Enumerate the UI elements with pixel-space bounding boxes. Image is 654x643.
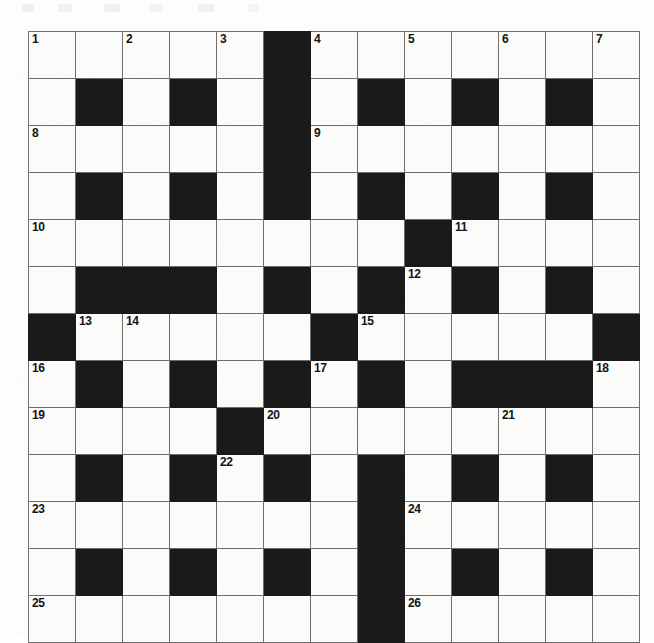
crossword-open-cell[interactable] <box>123 173 170 220</box>
crossword-open-cell[interactable] <box>170 32 217 79</box>
crossword-open-cell[interactable] <box>311 455 358 502</box>
crossword-open-cell[interactable] <box>76 408 123 455</box>
crossword-open-cell[interactable] <box>76 220 123 267</box>
crossword-open-cell[interactable] <box>593 126 640 173</box>
crossword-open-cell[interactable] <box>264 314 311 361</box>
crossword-open-cell[interactable] <box>452 32 499 79</box>
crossword-open-cell[interactable] <box>217 79 264 126</box>
crossword-open-cell[interactable] <box>123 549 170 596</box>
crossword-open-cell[interactable] <box>170 314 217 361</box>
crossword-open-cell[interactable] <box>311 596 358 643</box>
crossword-grid[interactable]: 1234567891011121314151617181920212223242… <box>28 31 640 643</box>
crossword-open-cell[interactable] <box>546 32 593 79</box>
crossword-open-cell[interactable] <box>264 220 311 267</box>
crossword-open-cell[interactable] <box>123 79 170 126</box>
crossword-open-cell[interactable] <box>29 79 76 126</box>
crossword-open-cell[interactable] <box>217 314 264 361</box>
crossword-open-cell[interactable] <box>123 455 170 502</box>
crossword-open-cell[interactable] <box>217 220 264 267</box>
crossword-open-cell[interactable] <box>76 502 123 549</box>
crossword-open-cell[interactable]: 20 <box>264 408 311 455</box>
crossword-open-cell[interactable]: 2 <box>123 32 170 79</box>
crossword-open-cell[interactable] <box>76 596 123 643</box>
crossword-open-cell[interactable] <box>170 126 217 173</box>
crossword-open-cell[interactable]: 13 <box>76 314 123 361</box>
crossword-open-cell[interactable] <box>217 267 264 314</box>
crossword-open-cell[interactable] <box>123 126 170 173</box>
crossword-open-cell[interactable]: 23 <box>29 502 76 549</box>
crossword-open-cell[interactable] <box>217 126 264 173</box>
crossword-open-cell[interactable] <box>499 173 546 220</box>
crossword-open-cell[interactable] <box>123 361 170 408</box>
crossword-open-cell[interactable]: 5 <box>405 32 452 79</box>
crossword-open-cell[interactable] <box>311 408 358 455</box>
crossword-open-cell[interactable] <box>170 220 217 267</box>
crossword-open-cell[interactable] <box>29 267 76 314</box>
crossword-open-cell[interactable] <box>452 126 499 173</box>
crossword-open-cell[interactable] <box>123 596 170 643</box>
crossword-open-cell[interactable]: 4 <box>311 32 358 79</box>
crossword-open-cell[interactable] <box>311 79 358 126</box>
crossword-open-cell[interactable] <box>123 408 170 455</box>
crossword-open-cell[interactable] <box>123 502 170 549</box>
crossword-open-cell[interactable] <box>217 596 264 643</box>
crossword-open-cell[interactable] <box>311 220 358 267</box>
crossword-open-cell[interactable]: 24 <box>405 502 452 549</box>
crossword-open-cell[interactable]: 15 <box>358 314 405 361</box>
crossword-open-cell[interactable] <box>593 502 640 549</box>
crossword-open-cell[interactable]: 8 <box>29 126 76 173</box>
crossword-open-cell[interactable]: 14 <box>123 314 170 361</box>
crossword-open-cell[interactable] <box>29 455 76 502</box>
crossword-open-cell[interactable] <box>499 314 546 361</box>
crossword-open-cell[interactable] <box>170 596 217 643</box>
crossword-open-cell[interactable] <box>405 455 452 502</box>
crossword-open-cell[interactable]: 12 <box>405 267 452 314</box>
crossword-open-cell[interactable] <box>499 596 546 643</box>
crossword-open-cell[interactable] <box>546 502 593 549</box>
crossword-open-cell[interactable] <box>593 79 640 126</box>
crossword-open-cell[interactable] <box>311 502 358 549</box>
crossword-open-cell[interactable] <box>499 502 546 549</box>
crossword-open-cell[interactable]: 18 <box>593 361 640 408</box>
crossword-open-cell[interactable] <box>358 220 405 267</box>
crossword-open-cell[interactable]: 7 <box>593 32 640 79</box>
crossword-open-cell[interactable] <box>170 502 217 549</box>
crossword-open-cell[interactable] <box>546 314 593 361</box>
crossword-open-cell[interactable]: 9 <box>311 126 358 173</box>
crossword-open-cell[interactable] <box>593 596 640 643</box>
crossword-open-cell[interactable]: 21 <box>499 408 546 455</box>
crossword-open-cell[interactable]: 3 <box>217 32 264 79</box>
crossword-open-cell[interactable] <box>593 220 640 267</box>
crossword-open-cell[interactable] <box>217 502 264 549</box>
crossword-open-cell[interactable] <box>405 549 452 596</box>
crossword-open-cell[interactable] <box>217 361 264 408</box>
crossword-open-cell[interactable] <box>452 502 499 549</box>
crossword-open-cell[interactable] <box>546 126 593 173</box>
crossword-open-cell[interactable] <box>452 596 499 643</box>
crossword-open-cell[interactable]: 11 <box>452 220 499 267</box>
crossword-open-cell[interactable] <box>358 32 405 79</box>
crossword-open-cell[interactable] <box>358 408 405 455</box>
crossword-open-cell[interactable]: 22 <box>217 455 264 502</box>
crossword-open-cell[interactable] <box>29 549 76 596</box>
crossword-open-cell[interactable]: 17 <box>311 361 358 408</box>
crossword-open-cell[interactable] <box>499 79 546 126</box>
crossword-open-cell[interactable] <box>311 549 358 596</box>
crossword-open-cell[interactable] <box>29 173 76 220</box>
crossword-open-cell[interactable] <box>264 502 311 549</box>
crossword-open-cell[interactable] <box>452 314 499 361</box>
crossword-open-cell[interactable]: 25 <box>29 596 76 643</box>
crossword-open-cell[interactable]: 1 <box>29 32 76 79</box>
crossword-open-cell[interactable] <box>546 408 593 455</box>
crossword-open-cell[interactable] <box>593 549 640 596</box>
crossword-open-cell[interactable] <box>405 361 452 408</box>
crossword-open-cell[interactable] <box>593 455 640 502</box>
crossword-open-cell[interactable] <box>76 126 123 173</box>
crossword-open-cell[interactable] <box>123 220 170 267</box>
crossword-open-cell[interactable] <box>593 408 640 455</box>
crossword-open-cell[interactable] <box>217 549 264 596</box>
crossword-open-cell[interactable]: 26 <box>405 596 452 643</box>
crossword-open-cell[interactable] <box>546 220 593 267</box>
crossword-open-cell[interactable] <box>546 596 593 643</box>
crossword-open-cell[interactable] <box>405 408 452 455</box>
